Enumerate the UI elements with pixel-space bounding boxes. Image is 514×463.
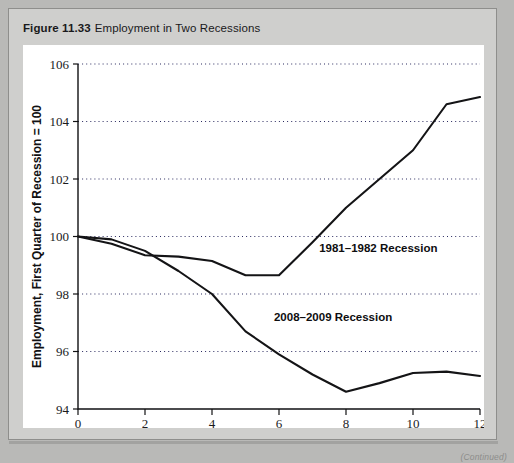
y-tick-label: 94 [56,402,70,417]
employment-line-chart: 949698100102104106024681012 1981–1982 Re… [23,45,484,428]
x-tick-label: 8 [343,416,350,428]
gridlines-group [78,64,480,352]
figure-card: Figure 11.33Employment in Two Recessions… [8,8,497,440]
ticks-group [73,64,480,415]
figure-title: Employment in Two Recessions [91,22,261,34]
y-tick-label: 96 [56,344,70,359]
y-tick-label: 98 [56,287,69,302]
y-tick-label: 106 [50,57,70,72]
series-annotations-group: 1981–1982 Recession2008–2009 Recession [274,242,438,323]
y-tick-label: 104 [50,114,70,129]
x-tick-label: 4 [209,416,216,428]
series-annotation-2008-2009-recession: 2008–2009 Recession [274,311,392,323]
x-tick-label: 6 [276,416,283,428]
continued-note: (Continued) [460,452,507,462]
chart-plot-area: 949698100102104106024681012 1981–1982 Re… [23,45,484,428]
x-tick-label: 12 [474,416,485,428]
x-tick-label: 0 [75,416,82,428]
y-axis-title: Employment, First Quarter of Recession =… [30,105,44,368]
x-tick-label: 10 [407,416,420,428]
series-annotation-1981-1982-recession: 1981–1982 Recession [319,242,437,254]
figure-caption: Figure 11.33Employment in Two Recessions [23,22,260,34]
y-tick-label: 102 [50,172,70,187]
x-tick-label: 2 [142,416,149,428]
figure-number: Figure 11.33 [23,22,91,34]
card-shadow [9,441,498,444]
y-tick-label: 100 [50,229,70,244]
